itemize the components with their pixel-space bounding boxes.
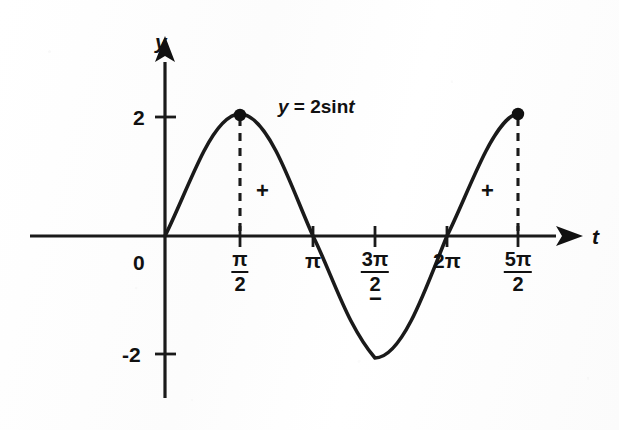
fraction-numerator: π xyxy=(231,249,248,273)
origin-label: 0 xyxy=(133,252,145,273)
fraction-denominator: 2 xyxy=(234,273,245,295)
equation-rhs-variable: t xyxy=(348,96,354,117)
t-tick-label-pi-over-2: π 2 xyxy=(231,249,248,295)
t-tick-label-pi: π xyxy=(305,250,321,271)
sign-plus-third-hump: + xyxy=(481,180,494,202)
equation-lhs: y xyxy=(278,96,289,117)
y-tick-label-minus-2: -2 xyxy=(122,344,141,365)
equation-label: y = 2sint xyxy=(278,97,355,116)
max-point-pi-over-2 xyxy=(234,109,246,121)
fraction-denominator: 2 xyxy=(512,273,523,295)
t-tick-label-5pi-over-2: 5π 2 xyxy=(504,249,532,295)
fraction-numerator: 3π xyxy=(361,249,389,273)
max-point-5pi-over-2 xyxy=(512,108,524,120)
t-axis-arrowhead xyxy=(556,226,583,246)
fraction-numerator: 5π xyxy=(504,249,532,273)
y-tick-label-2: 2 xyxy=(133,107,145,128)
t-tick-label-2pi: 2π xyxy=(433,250,461,271)
t-axis-label: t xyxy=(592,226,599,247)
sign-plus-first-hump: + xyxy=(256,180,269,202)
equation-operator: = 2sin xyxy=(289,96,349,117)
figure-page: y t 2 -2 0 π 2 π 3π 2 2π 5π 2 + − + y = … xyxy=(0,0,619,430)
y-axis-label: y xyxy=(155,31,167,52)
sign-minus-trough: − xyxy=(369,288,382,310)
sine-graph-svg xyxy=(0,0,619,430)
